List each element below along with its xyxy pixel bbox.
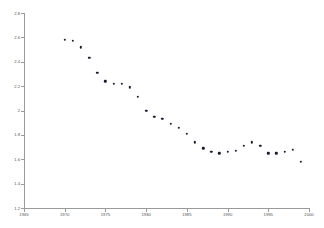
plot-area xyxy=(24,13,309,208)
x-tick-label-wrap: 1985 xyxy=(172,212,202,218)
data-point xyxy=(121,82,123,84)
x-tick-label: 1975 xyxy=(90,212,120,218)
data-point xyxy=(235,150,237,152)
y-tick-label: 1.2 xyxy=(14,206,20,211)
data-point xyxy=(112,82,114,84)
data-point xyxy=(210,151,212,153)
data-point xyxy=(169,123,171,125)
y-tick-label-wrap: 2.2 xyxy=(0,84,20,89)
data-point xyxy=(300,160,302,162)
data-point xyxy=(64,39,66,41)
data-point xyxy=(275,152,277,154)
x-tick-label-wrap: 1975 xyxy=(90,212,120,218)
y-tick-label: 2.4 xyxy=(14,59,20,64)
data-point xyxy=(267,152,269,154)
x-tick-label: 1970 xyxy=(50,212,80,218)
data-point xyxy=(218,152,220,154)
data-point xyxy=(145,109,147,111)
y-tick-label-wrap: 1.4 xyxy=(0,181,20,186)
x-tick-label: 1980 xyxy=(131,212,161,218)
x-axis-line xyxy=(24,208,310,209)
x-tick-label: 1965 xyxy=(9,212,39,218)
data-point xyxy=(72,40,74,42)
data-point xyxy=(292,148,294,150)
data-point xyxy=(137,96,139,98)
data-point xyxy=(226,151,228,153)
data-point xyxy=(178,126,180,128)
x-tick-label: 1990 xyxy=(213,212,243,218)
x-tick-label-wrap: 1980 xyxy=(131,212,161,218)
x-tick-label-wrap: 1970 xyxy=(50,212,80,218)
data-point xyxy=(88,57,90,59)
scatter-chart: 1.21.41.61.822.22.42.62.8 19651970197519… xyxy=(0,0,324,228)
data-point xyxy=(104,80,106,82)
x-tick-label-wrap: 2000 xyxy=(294,212,324,218)
y-tick-label-wrap: 2 xyxy=(0,108,20,113)
y-tick-label: 2.2 xyxy=(14,84,20,89)
y-tick-label: 1.6 xyxy=(14,157,20,162)
x-tick-label: 1985 xyxy=(172,212,202,218)
data-point xyxy=(153,115,155,117)
data-point xyxy=(96,72,98,74)
data-point xyxy=(259,145,261,147)
y-tick-label-wrap: 2.8 xyxy=(0,11,20,16)
x-tick-label: 2000 xyxy=(294,212,324,218)
y-tick-label: 2 xyxy=(18,108,20,113)
x-tick-label-wrap: 1965 xyxy=(9,212,39,218)
y-tick-label-wrap: 2.4 xyxy=(0,59,20,64)
x-tick-label: 1995 xyxy=(253,212,283,218)
data-point xyxy=(161,118,163,120)
x-tick-label-wrap: 1995 xyxy=(253,212,283,218)
data-point xyxy=(202,147,204,149)
data-point xyxy=(243,145,245,147)
y-tick-label: 1.4 xyxy=(14,181,20,186)
y-tick-label-wrap: 1.2 xyxy=(0,206,20,211)
y-tick-label: 1.8 xyxy=(14,132,20,137)
y-tick-label-wrap: 2.6 xyxy=(0,35,20,40)
data-point xyxy=(251,141,253,143)
data-point xyxy=(194,141,196,143)
x-tick-label-wrap: 1990 xyxy=(213,212,243,218)
y-tick-label: 2.6 xyxy=(14,35,20,40)
y-tick-label-wrap: 1.8 xyxy=(0,132,20,137)
data-point xyxy=(283,151,285,153)
data-point xyxy=(186,132,188,134)
data-point xyxy=(80,46,82,48)
data-point xyxy=(129,86,131,88)
y-tick-label-wrap: 1.6 xyxy=(0,157,20,162)
y-tick-label: 2.8 xyxy=(14,11,20,16)
